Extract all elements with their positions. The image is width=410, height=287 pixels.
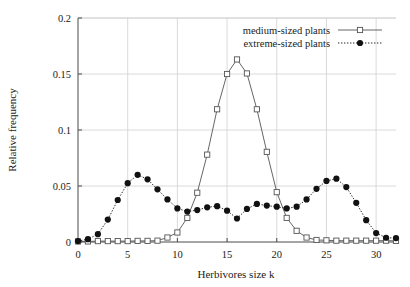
data-point-marker <box>85 236 91 242</box>
data-point-marker <box>195 190 200 195</box>
x-tick-label: 5 <box>125 249 130 260</box>
data-point-marker <box>75 238 81 244</box>
data-point-marker <box>254 201 260 207</box>
data-point-marker <box>175 230 180 235</box>
data-point-marker <box>185 215 190 220</box>
y-axis-label: Relative frequency <box>6 88 18 172</box>
y-tick-label: 0 <box>66 237 71 248</box>
data-point-marker <box>344 238 349 243</box>
data-point-marker <box>364 238 369 243</box>
data-point-marker <box>165 235 170 240</box>
y-tick-label: 0.15 <box>53 69 71 80</box>
data-point-marker <box>115 239 120 244</box>
data-point-marker <box>374 238 379 243</box>
data-point-marker <box>125 180 131 186</box>
data-point-marker <box>373 230 379 236</box>
data-point-marker <box>105 239 110 244</box>
data-point-marker <box>304 235 309 240</box>
data-point-marker <box>204 204 210 210</box>
data-point-marker <box>234 57 239 62</box>
data-point-marker <box>244 71 249 76</box>
x-axis-label: Herbivores size k <box>198 268 275 280</box>
data-point-marker <box>174 205 180 211</box>
data-point-marker <box>135 172 141 178</box>
data-point-marker <box>194 207 200 213</box>
chart-background <box>0 0 410 287</box>
legend-sample-marker <box>357 27 362 32</box>
data-point-marker <box>164 196 170 202</box>
data-point-marker <box>214 203 220 209</box>
data-point-marker <box>224 208 230 214</box>
data-point-marker <box>205 152 210 157</box>
y-tick-label: 0.2 <box>58 13 71 24</box>
data-point-marker <box>284 205 290 211</box>
legend-label-extreme-sized-plants: extreme-sized plants <box>243 38 330 49</box>
data-point-marker <box>303 196 309 202</box>
y-tick-label: 0.1 <box>58 125 71 136</box>
data-point-marker <box>313 186 319 192</box>
x-tick-label: 0 <box>75 249 80 260</box>
data-point-marker <box>155 238 160 243</box>
data-point-marker <box>324 238 329 243</box>
data-point-marker <box>323 178 329 184</box>
y-tick-label: 0.05 <box>53 181 71 192</box>
data-point-marker <box>294 204 300 210</box>
data-point-marker <box>254 107 259 112</box>
data-point-marker <box>184 208 190 214</box>
data-point-marker <box>294 228 299 233</box>
data-point-marker <box>353 200 359 206</box>
data-point-marker <box>234 215 240 221</box>
data-point-marker <box>264 149 269 154</box>
data-point-marker <box>144 176 150 182</box>
data-point-marker <box>125 239 130 244</box>
data-point-marker <box>154 186 160 192</box>
data-point-marker <box>115 197 121 203</box>
x-tick-label: 10 <box>172 249 183 260</box>
data-point-marker <box>244 206 250 212</box>
data-point-marker <box>95 231 101 237</box>
x-tick-label: 30 <box>371 249 382 260</box>
data-point-marker <box>343 184 349 190</box>
data-point-marker <box>334 238 339 243</box>
relative-frequency-line-chart: 00.050.10.150.2 051015202530 medium-size… <box>0 0 410 287</box>
data-point-marker <box>95 239 100 244</box>
legend-label-medium-sized-plants: medium-sized plants <box>243 25 330 36</box>
data-point-marker <box>145 238 150 243</box>
data-point-marker <box>264 203 270 209</box>
data-point-marker <box>215 107 220 112</box>
x-tick-label: 15 <box>222 249 233 260</box>
data-point-marker <box>393 235 399 241</box>
data-point-marker <box>354 238 359 243</box>
data-point-marker <box>363 217 369 223</box>
data-point-marker <box>224 71 229 76</box>
data-point-marker <box>105 217 111 223</box>
data-point-marker <box>314 237 319 242</box>
chart-figure: 00.050.10.150.2 051015202530 medium-size… <box>0 0 410 287</box>
legend-sample-marker <box>357 40 363 46</box>
x-tick-label: 20 <box>272 249 283 260</box>
data-point-marker <box>383 235 389 241</box>
data-point-marker <box>135 238 140 243</box>
data-point-marker <box>333 176 339 182</box>
data-point-marker <box>284 215 289 220</box>
x-tick-label: 25 <box>321 249 332 260</box>
data-point-marker <box>274 190 279 195</box>
data-point-marker <box>274 204 280 210</box>
